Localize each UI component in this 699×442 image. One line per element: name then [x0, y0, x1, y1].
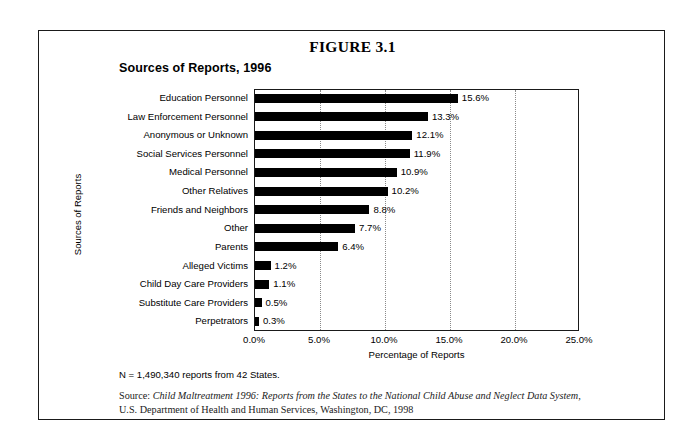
bar-rows: Education Personnel15.6%Law Enforcement … — [39, 89, 666, 331]
bar-row: Alleged Victims1.2% — [39, 257, 666, 276]
x-tick-label: 20.0% — [484, 334, 544, 345]
bar-row: Perpetrators0.3% — [39, 312, 666, 331]
bar-value-label: 7.7% — [359, 221, 381, 235]
bar-row: Medical Personnel10.9% — [39, 163, 666, 182]
x-tick-label: 25.0% — [549, 334, 609, 345]
category-label: Alleged Victims — [39, 259, 248, 273]
bar-row: Friends and Neighbors8.8% — [39, 201, 666, 220]
bar-row: Social Services Personnel11.9% — [39, 145, 666, 164]
bar-row: Parents6.4% — [39, 238, 666, 257]
bar — [255, 317, 259, 326]
bar — [255, 224, 355, 233]
bar-value-label: 1.1% — [273, 277, 295, 291]
category-label: Education Personnel — [39, 91, 248, 105]
bar-value-label: 13.3% — [432, 110, 459, 124]
x-axis-title: Percentage of Reports — [254, 349, 579, 360]
bar-value-label: 0.3% — [263, 314, 285, 328]
x-tick-label: 0.0% — [224, 334, 284, 345]
bar-row: Child Day Care Providers1.1% — [39, 275, 666, 294]
bar-value-label: 0.5% — [266, 296, 288, 310]
bar — [255, 112, 428, 121]
bar — [255, 149, 410, 158]
source-publication-title: Child Maltreatment 1996: Reports from th… — [153, 390, 581, 401]
category-label: Anonymous or Unknown — [39, 128, 248, 142]
bar — [255, 280, 269, 289]
bar-row: Substitute Care Providers0.5% — [39, 294, 666, 313]
bar-chart: Sources of Reports Education Personnel15… — [39, 31, 666, 421]
bar-value-label: 6.4% — [342, 240, 364, 254]
category-label: Other — [39, 221, 248, 235]
bar — [255, 187, 388, 196]
bar-row: Anonymous or Unknown12.1% — [39, 126, 666, 145]
category-label: Perpetrators — [39, 314, 248, 328]
bar — [255, 261, 271, 270]
category-label: Substitute Care Providers — [39, 296, 248, 310]
bar — [255, 131, 412, 140]
x-tick-label: 15.0% — [419, 334, 479, 345]
bar — [255, 242, 338, 251]
bar-value-label: 1.2% — [275, 259, 297, 273]
bar-row: Education Personnel15.6% — [39, 89, 666, 108]
category-label: Other Relatives — [39, 184, 248, 198]
bar-value-label: 12.1% — [416, 128, 443, 142]
bar-row: Law Enforcement Personnel13.3% — [39, 108, 666, 127]
bar — [255, 94, 458, 103]
source-publisher: U.S. Department of Health and Human Serv… — [119, 404, 413, 415]
category-label: Parents — [39, 240, 248, 254]
category-label: Medical Personnel — [39, 165, 248, 179]
bar — [255, 205, 369, 214]
x-tick-label: 10.0% — [354, 334, 414, 345]
category-label: Friends and Neighbors — [39, 203, 248, 217]
bar — [255, 298, 262, 307]
bar-value-label: 11.9% — [414, 147, 441, 161]
source-note: Source: Child Maltreatment 1996: Reports… — [119, 389, 639, 416]
source-prefix: Source: — [119, 390, 153, 401]
figure-container: FIGURE 3.1 Sources of Reports, 1996 Sour… — [38, 30, 665, 420]
bar — [255, 168, 397, 177]
sample-size-note: N = 1,490,340 reports from 42 States. — [119, 369, 280, 380]
bar-row: Other7.7% — [39, 219, 666, 238]
bar-value-label: 8.8% — [373, 203, 395, 217]
x-axis-ticks: 0.0%5.0%10.0%15.0%20.0%25.0% — [39, 334, 666, 348]
bar-value-label: 15.6% — [462, 91, 489, 105]
bar-value-label: 10.2% — [392, 184, 419, 198]
bar-value-label: 10.9% — [401, 165, 428, 179]
category-label: Social Services Personnel — [39, 147, 248, 161]
category-label: Child Day Care Providers — [39, 277, 248, 291]
category-label: Law Enforcement Personnel — [39, 110, 248, 124]
x-tick-label: 5.0% — [289, 334, 349, 345]
bar-row: Other Relatives10.2% — [39, 182, 666, 201]
